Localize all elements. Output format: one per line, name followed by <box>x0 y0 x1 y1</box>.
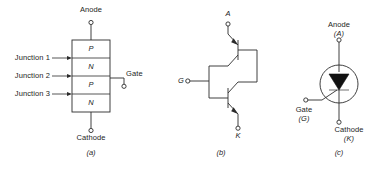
caption-c: (c) <box>335 148 344 157</box>
anode-terminal-dot-c <box>337 38 341 42</box>
anode-symbol-c: (A) <box>334 30 344 38</box>
cathode-label-c: Cathode <box>334 126 363 134</box>
scr-triangle <box>329 74 349 90</box>
gate-symbol-c: (G) <box>298 115 309 123</box>
anode-label-c: Anode <box>328 21 350 29</box>
panel-c-scr-symbol: Anode (A) Cathode (K) Gate (G) (c) <box>0 0 391 176</box>
gate-terminal-dot-c <box>304 98 308 102</box>
cathode-terminal-dot-c <box>337 120 341 124</box>
gate-label-c: Gate <box>296 106 313 114</box>
cathode-symbol-c: (K) <box>344 135 354 143</box>
gate-lead-c-slant <box>322 90 337 100</box>
